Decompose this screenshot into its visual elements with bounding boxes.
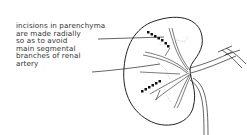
upper-incision (147, 31, 170, 48)
incision-markers (141, 31, 170, 93)
leader-line-lower-2 (140, 72, 180, 74)
leader-line-lower (92, 64, 160, 72)
renal-vessels (190, 46, 246, 135)
segmental-arteries (143, 28, 191, 108)
kidney-diagram (0, 0, 247, 135)
lower-incision (141, 80, 161, 93)
kidney-outline (124, 17, 203, 125)
